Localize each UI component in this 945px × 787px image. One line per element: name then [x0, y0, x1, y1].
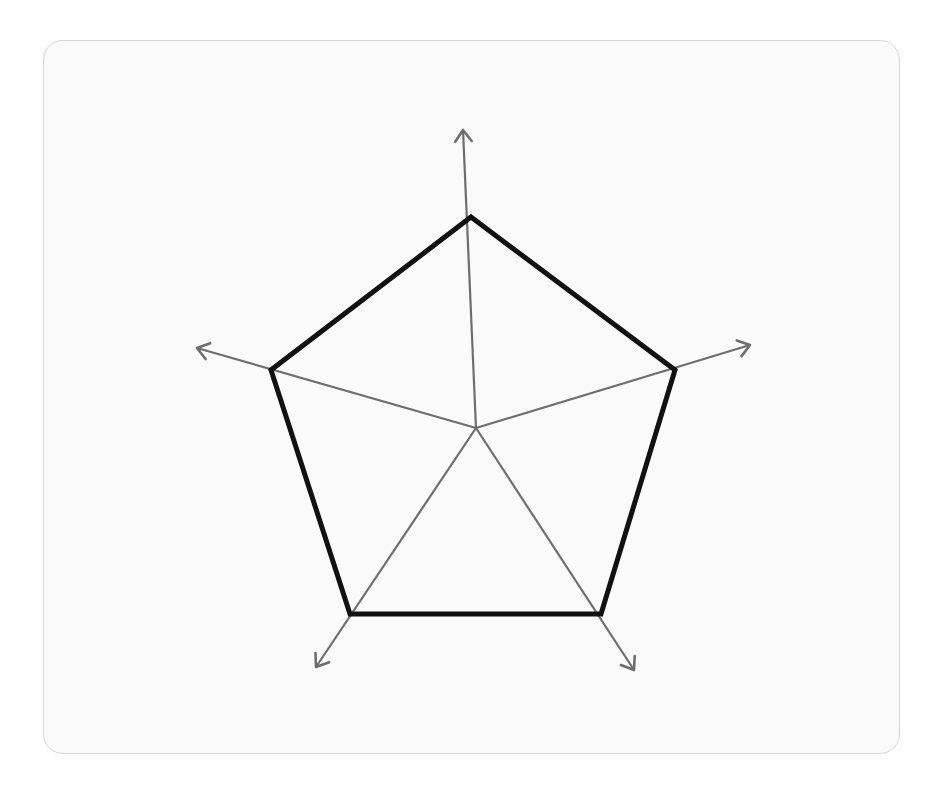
axis-left-line — [197, 348, 476, 428]
pentagon-outline — [271, 217, 675, 614]
axis-right-line — [476, 345, 750, 428]
axis-bottom-left-line — [316, 428, 476, 667]
axis-top-line — [463, 130, 476, 428]
axis-bottom-right-line — [476, 428, 634, 670]
radar-pentagon-diagram — [0, 0, 945, 787]
